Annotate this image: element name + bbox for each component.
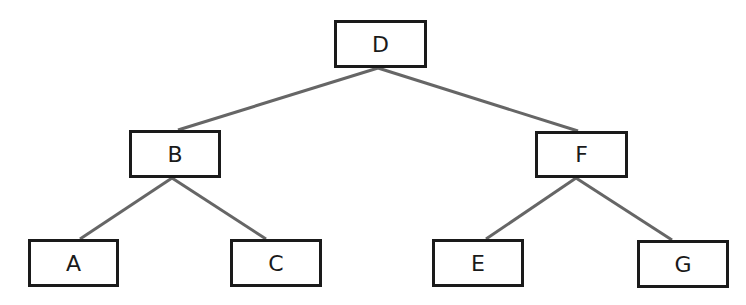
node-f: F [535, 131, 628, 178]
edge-B-A [80, 178, 172, 239]
node-label: G [674, 252, 691, 277]
edge-B-C [172, 178, 266, 239]
node-label: D [372, 32, 389, 57]
edge-F-E [486, 178, 576, 239]
node-c: C [230, 239, 322, 287]
node-d: D [334, 20, 427, 68]
node-g: G [637, 240, 729, 288]
node-label: C [268, 251, 283, 276]
edge-F-G [576, 178, 672, 240]
node-label: B [167, 142, 182, 167]
node-e: E [432, 239, 524, 287]
node-label: F [575, 142, 588, 167]
node-b: B [129, 130, 221, 178]
edge-D-F [378, 68, 578, 131]
node-label: E [471, 251, 485, 276]
node-a: A [28, 239, 119, 287]
edge-D-B [178, 68, 378, 130]
node-label: A [66, 251, 81, 276]
